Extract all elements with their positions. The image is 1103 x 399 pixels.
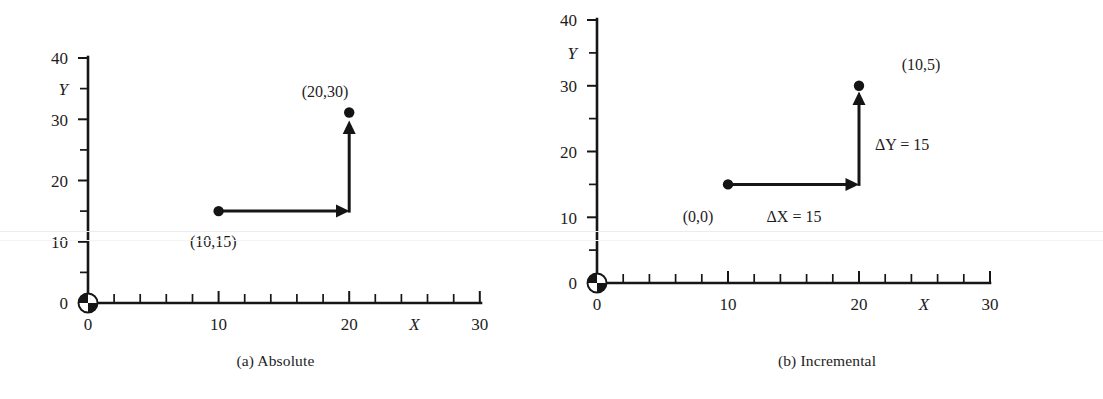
delta-y-annotation: ΔY = 15 [875,136,929,153]
point-label-end: (20,30) [302,83,349,101]
x-tick-label-30: 30 [982,295,999,314]
tool-path [219,121,356,218]
y-axis-name: Y [568,44,579,63]
y-tick-label-40: 40 [560,11,577,30]
x-tick-label-30: 30 [471,315,488,334]
panel-absolute: 40 Y 30 20 10 0 0 10 20 X 30 [0,0,551,399]
panel-incremental: 40 Y 30 20 10 0 0 10 20 X 30 (0,0) (10, [551,0,1103,399]
x-tick-label-10: 10 [720,295,737,314]
caption-absolute: (a) Absolute [0,352,551,370]
point-label-start: (10,15) [190,233,237,251]
plot-incremental: 40 Y 30 20 10 0 0 10 20 X 30 (0,0) (10, [551,0,1103,399]
y-tick-label-30: 30 [51,111,68,130]
y-axis-name: Y [59,80,70,99]
y-tick-label-10: 10 [560,209,577,228]
x-tick-label-0: 0 [84,315,93,334]
arrowhead-right-icon [336,205,350,218]
plot-absolute: 40 Y 30 20 10 0 0 10 20 X 30 [0,0,551,399]
tool-path [728,92,866,191]
arrowhead-up-icon [343,121,356,135]
y-tick-label-20: 20 [560,143,577,162]
y-tick-label-40: 40 [51,49,68,68]
y-axis-ticks [78,58,88,272]
x-tick-label-10: 10 [210,315,227,334]
x-axis-ticks [623,271,990,283]
y-tick-label-20: 20 [51,172,68,191]
point-marker-end [854,81,864,91]
x-tick-label-0: 0 [593,295,602,314]
x-axis-name: X [408,315,420,334]
origin-datum-icon [79,294,98,313]
y-tick-label-0: 0 [60,294,69,313]
x-tick-label-20: 20 [851,295,868,314]
x-tick-label-20: 20 [341,315,358,334]
y-axis-ticks [587,20,597,250]
delta-x-annotation: ΔX = 15 [767,208,822,225]
point-label-end: (10,5) [902,56,941,74]
origin-datum-icon [588,274,607,293]
point-marker-end [344,107,354,117]
point-marker-start [213,206,223,216]
point-label-start: (0,0) [683,208,714,226]
y-tick-label-10: 10 [51,233,68,252]
y-tick-label-30: 30 [560,77,577,96]
arrowhead-right-icon [846,178,860,191]
caption-incremental: (b) Incremental [551,352,1103,370]
arrowhead-up-icon [853,92,866,106]
x-axis-name: X [918,295,930,314]
point-marker-start [723,179,733,189]
figure-absolute-vs-incremental: 40 Y 30 20 10 0 0 10 20 X 30 [0,0,1103,399]
x-axis-ticks [114,291,480,303]
y-tick-label-0: 0 [569,274,578,293]
